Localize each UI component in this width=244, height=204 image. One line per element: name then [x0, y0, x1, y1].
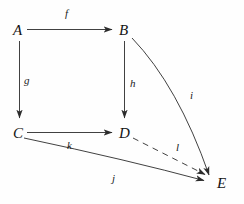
node-label-a: A: [13, 23, 22, 38]
edge-i-arrow: [132, 38, 209, 175]
node-label-b: B: [119, 23, 128, 38]
edge-label-h: h: [130, 78, 136, 89]
node-label-c: C: [13, 126, 23, 141]
edge-label-f: f: [65, 8, 68, 19]
commutative-diagram: A B C D E f g h i j k l: [0, 0, 244, 204]
edge-label-j: j: [112, 173, 115, 184]
edge-label-l: l: [176, 142, 179, 153]
node-label-e: E: [217, 176, 226, 191]
edge-l-arrow: [133, 138, 205, 175]
edge-label-i: i: [190, 90, 193, 101]
edge-label-k: k: [67, 140, 72, 151]
edge-label-g: g: [24, 75, 30, 86]
node-label-d: D: [119, 126, 130, 141]
